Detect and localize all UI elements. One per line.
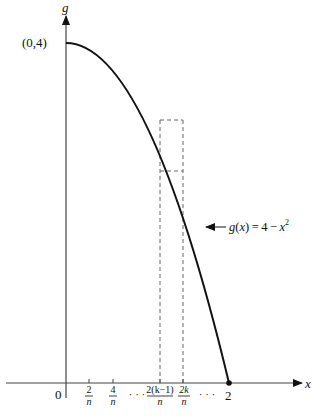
svg-text:n: n	[182, 396, 187, 407]
svg-text:4: 4	[111, 384, 116, 395]
y-axis-label: g	[62, 0, 69, 15]
tick-label-2k-minus-1-over-n: 2(k−1) n	[146, 384, 173, 407]
svg-text:n: n	[158, 396, 163, 407]
x-intercept-label: 2	[225, 388, 232, 403]
function-annotation: g(x) = 4 − x2	[206, 218, 289, 234]
svg-text:n: n	[87, 396, 92, 407]
function-curve	[66, 43, 229, 383]
x-axis-label: x	[304, 376, 311, 391]
tick-label-4-over-n: 4 n	[109, 384, 117, 407]
function-label: g(x) = 4 − x2	[229, 218, 289, 234]
ellipsis-left: · · ·	[129, 388, 146, 400]
svg-text:2k: 2k	[179, 384, 189, 395]
y-axis: g	[62, 0, 69, 398]
x-intercept-dot	[226, 380, 232, 386]
ellipsis-right: · · ·	[199, 388, 216, 400]
function-graph: g x g(x) = 4 − x2 (0,4) 0 2 2 n 4 n	[0, 0, 315, 416]
svg-text:2: 2	[87, 384, 92, 395]
origin-label: 0	[55, 387, 62, 402]
tick-label-2-over-n: 2 n	[85, 384, 93, 407]
svg-text:2(k−1): 2(k−1)	[146, 384, 173, 396]
svg-text:n: n	[111, 396, 116, 407]
y-intercept-label: (0,4)	[22, 35, 47, 50]
tick-label-2k-over-n: 2k n	[178, 384, 190, 407]
partition-rectangle	[160, 120, 183, 383]
